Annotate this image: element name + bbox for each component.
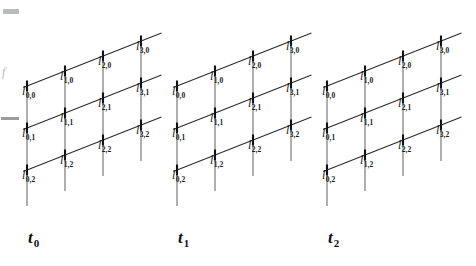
- node-label-3-0: l3,0: [436, 39, 449, 55]
- node-label-2-0: l2,0: [248, 54, 261, 70]
- lattice-diagram: l0,0l1,0l2,0l3,0l0,1l1,1l2,1l3,1l0,2l1,2…: [0, 0, 476, 266]
- node-label-1-2: l1,2: [210, 153, 223, 169]
- node-label-1-1: l1,1: [210, 111, 223, 127]
- node-label-3-0: l3,0: [136, 39, 149, 55]
- lattice-groups-layer: l0,0l1,0l2,0l3,0l0,1l1,1l2,1l3,1l0,2l1,2…: [22, 33, 461, 206]
- node-label-1-0: l1,0: [360, 69, 373, 85]
- time-labels-layer: t0t1t2: [28, 228, 340, 249]
- node-label-3-2: l3,2: [286, 123, 299, 139]
- node-label-3-1: l3,1: [136, 81, 149, 97]
- node-label-0-0: l0,0: [22, 84, 35, 100]
- node-label-3-0: l3,0: [286, 39, 299, 55]
- node-label-3-2: l3,2: [136, 123, 149, 139]
- node-label-1-0: l1,0: [60, 69, 73, 85]
- node-label-0-2: l0,2: [22, 168, 35, 184]
- node-label-1-2: l1,2: [360, 153, 373, 169]
- node-label-2-1: l2,1: [398, 96, 411, 112]
- node-label-3-1: l3,1: [286, 81, 299, 97]
- node-label-1-1: l1,1: [60, 111, 73, 127]
- node-label-2-2: l2,2: [398, 138, 411, 154]
- time-label-t0: t0: [28, 228, 40, 249]
- node-label-1-1: l1,1: [360, 111, 373, 127]
- node-label-0-0: l0,0: [322, 84, 335, 100]
- node-label-2-1: l2,1: [248, 96, 261, 112]
- lattice-group-t0: l0,0l1,0l2,0l3,0l0,1l1,1l2,1l3,1l0,2l1,2…: [22, 33, 161, 206]
- node-label-1-2: l1,2: [60, 153, 73, 169]
- time-label-t1: t1: [178, 228, 189, 249]
- node-label-0-0: l0,0: [172, 84, 185, 100]
- node-label-0-1: l0,1: [322, 126, 335, 142]
- node-label-0-1: l0,1: [172, 126, 185, 142]
- node-label-1-0: l1,0: [210, 69, 223, 85]
- time-label-t2: t2: [328, 228, 340, 249]
- node-label-2-0: l2,0: [398, 54, 411, 70]
- node-label-2-2: l2,2: [248, 138, 261, 154]
- node-label-0-1: l0,1: [22, 126, 35, 142]
- node-label-0-2: l0,2: [322, 168, 335, 184]
- node-label-0-2: l0,2: [172, 168, 185, 184]
- node-label-3-2: l3,2: [436, 123, 449, 139]
- node-label-2-1: l2,1: [98, 96, 111, 112]
- node-label-2-0: l2,0: [98, 54, 111, 70]
- node-label-3-1: l3,1: [436, 81, 449, 97]
- figure-root: f l0,0l1,0l2,0l3,0l0,1l1,1l2,1l3,1l0,2l1…: [0, 0, 476, 266]
- lattice-group-t1: l0,0l1,0l2,0l3,0l0,1l1,1l2,1l3,1l0,2l1,2…: [172, 33, 311, 206]
- node-label-2-2: l2,2: [98, 138, 111, 154]
- lattice-group-t2: l0,0l1,0l2,0l3,0l0,1l1,1l2,1l3,1l0,2l1,2…: [322, 33, 461, 206]
